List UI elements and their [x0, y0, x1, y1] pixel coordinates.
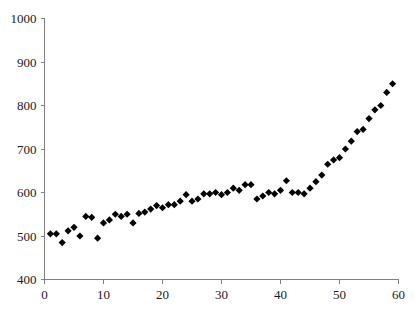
data-point — [194, 195, 201, 202]
data-point — [183, 191, 190, 198]
data-point — [389, 80, 396, 87]
x-tick-label: 60 — [392, 287, 405, 302]
y-tick-label: 900 — [17, 55, 37, 70]
data-point — [88, 214, 95, 221]
data-point — [135, 210, 142, 217]
data-point — [354, 128, 361, 135]
data-point — [129, 219, 136, 226]
x-tick-label: 0 — [41, 287, 48, 302]
data-point — [59, 239, 66, 246]
data-point — [76, 232, 83, 239]
data-point — [306, 185, 313, 192]
plot-area: 4005006007008009001000 0102030405060 — [0, 0, 418, 319]
y-tick-label: 1000 — [11, 11, 37, 26]
data-point — [153, 202, 160, 209]
y-tick-label: 800 — [17, 98, 37, 113]
x-tick-label: 30 — [215, 287, 228, 302]
data-point — [336, 154, 343, 161]
data-point — [53, 230, 60, 237]
data-point — [301, 190, 308, 197]
x-tick-label: 20 — [156, 287, 169, 302]
data-point — [236, 187, 243, 194]
data-point — [177, 198, 184, 205]
data-point — [360, 126, 367, 133]
data-point — [159, 204, 166, 211]
data-point — [377, 102, 384, 109]
data-point — [312, 178, 319, 185]
y-axis: 4005006007008009001000 — [11, 11, 45, 287]
data-point — [265, 189, 272, 196]
data-point — [271, 190, 278, 197]
data-point — [247, 181, 254, 188]
data-point — [106, 216, 113, 223]
data-point — [342, 145, 349, 152]
data-point — [230, 185, 237, 192]
data-point — [277, 187, 284, 194]
scatter-chart: 4005006007008009001000 0102030405060 — [0, 0, 418, 319]
data-point — [118, 213, 125, 220]
x-axis: 0102030405060 — [41, 280, 405, 302]
data-point — [82, 213, 89, 220]
data-point — [318, 172, 325, 179]
data-point — [147, 205, 154, 212]
y-tick-label: 500 — [17, 229, 37, 244]
data-point — [94, 235, 101, 242]
data-point — [383, 89, 390, 96]
data-point — [348, 138, 355, 145]
data-point — [371, 106, 378, 113]
data-point — [212, 189, 219, 196]
data-point — [218, 191, 225, 198]
data-point — [70, 224, 77, 231]
data-point — [283, 177, 290, 184]
data-point — [295, 189, 302, 196]
x-tick-label: 10 — [97, 287, 110, 302]
data-point — [141, 208, 148, 215]
data-point — [224, 189, 231, 196]
data-point — [124, 211, 131, 218]
data-point — [253, 195, 260, 202]
y-tick-label: 400 — [17, 272, 37, 287]
data-point — [171, 201, 178, 208]
y-tick-label: 600 — [17, 185, 37, 200]
data-point — [324, 161, 331, 168]
data-points — [47, 80, 396, 246]
y-tick-label: 700 — [17, 142, 37, 157]
data-point — [100, 219, 107, 226]
data-point — [330, 156, 337, 163]
data-point — [365, 115, 372, 122]
data-point — [65, 227, 72, 234]
x-tick-label: 50 — [333, 287, 346, 302]
x-tick-label: 40 — [274, 287, 287, 302]
data-point — [112, 211, 119, 218]
data-point — [188, 198, 195, 205]
data-point — [206, 190, 213, 197]
data-point — [259, 192, 266, 199]
